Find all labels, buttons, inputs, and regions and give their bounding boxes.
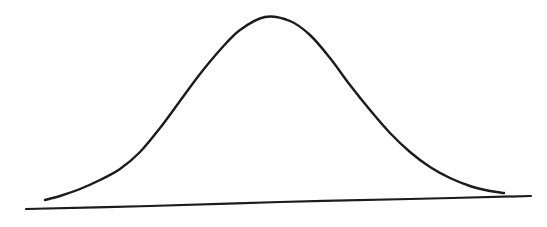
bell-curve-drawing (0, 0, 547, 227)
bell-curve-figure (0, 0, 547, 227)
scan-noise-overlay (0, 0, 547, 227)
